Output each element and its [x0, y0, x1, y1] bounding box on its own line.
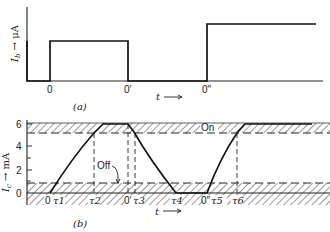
transistor-switching-diagram: Ib → μA 0 0′ 0″ t (a) — [0, 0, 330, 232]
panel-a-x-label: t — [156, 91, 161, 102]
panel-b-x-label: t — [155, 206, 160, 217]
panel-a-caption: (a) — [73, 101, 87, 112]
on-region-label: On — [201, 122, 214, 133]
time-label-tau6: τ6 — [232, 195, 245, 206]
y-tick-2: 2 — [16, 165, 22, 176]
panel-b: 6 4 2 0 Ic → mA On Off 0 — [0, 119, 330, 229]
time-label-0: 0 — [45, 195, 51, 206]
svg-text:Ic → mA: Ic → mA — [0, 152, 13, 193]
panel-a-y-label: Ib → μA — [9, 24, 22, 63]
y-tick-6: 6 — [16, 119, 22, 130]
off-pointer-arrow — [112, 166, 118, 182]
panel-b-caption: (b) — [73, 218, 87, 229]
time-label-tau3: τ3 — [133, 195, 145, 206]
base-current-waveform — [27, 24, 316, 81]
arrow-right-icon — [164, 95, 182, 99]
time-label-tau5: τ5 — [211, 195, 223, 206]
time-label-tau1: τ1 — [53, 195, 65, 206]
time-label-0: 0 — [47, 84, 53, 95]
cutoff-region — [27, 183, 330, 193]
time-label-0-prime: 0′ — [124, 84, 132, 95]
time-label-0-prime: 0′ — [124, 195, 132, 206]
arrow-right-icon — [163, 209, 181, 213]
time-label-tau2: τ2 — [89, 195, 101, 206]
y-tick-4: 4 — [16, 141, 22, 152]
time-label-tau4: τ4 — [171, 195, 183, 206]
y-tick-0: 0 — [16, 188, 22, 199]
off-region-label: Off — [97, 160, 110, 171]
time-label-0-double-prime: 0″ — [202, 84, 212, 95]
time-label-0-double-prime: 0″ — [201, 195, 211, 206]
svg-text:Ib → μA: Ib → μA — [9, 24, 22, 63]
panel-b-y-label: Ic → mA — [0, 152, 13, 193]
panel-a: Ib → μA 0 0′ 0″ t (a) — [9, 7, 323, 112]
